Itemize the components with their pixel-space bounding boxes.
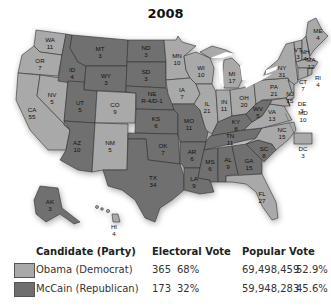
state-ev-NM: 5 (108, 146, 112, 153)
state-label-IA: IA (179, 86, 186, 93)
state-ev-CT: 7 (301, 85, 305, 92)
state-label-UT: UT (76, 99, 84, 106)
electoral-votes: 173 (152, 283, 171, 294)
state-ev-VA: 13 (269, 115, 276, 122)
state-label-WV: WV (253, 105, 264, 112)
state-label-SD: SD (142, 68, 151, 75)
state-ev-ID: 4 (70, 73, 74, 80)
state-label-NM: NM (105, 139, 115, 146)
state-label-FL: FL (258, 190, 266, 197)
state-ev-KS: 6 (154, 122, 158, 129)
state-ev-MT: 3 (98, 52, 102, 59)
state-label-SC: SC (260, 145, 269, 152)
state-label-TN: TN (226, 132, 234, 139)
state-ev-NV: 5 (50, 98, 54, 105)
republican-swatch (14, 282, 35, 297)
state-label-DE: DE (298, 100, 307, 107)
state-label-AL: AL (224, 156, 232, 163)
state-ev-MD: 10 (300, 116, 307, 123)
state-ev-RI: 4 (316, 81, 320, 88)
legend-row-obama: Obama (Democrat) 365 68% 69,498,459 52.9… (0, 263, 331, 279)
state-label-MN: MN (172, 52, 182, 59)
state-label-MI: MI (229, 70, 236, 77)
state-label-LA: LA (190, 175, 198, 182)
state-ev-MO: 11 (186, 124, 193, 131)
state-ev-ME: 4 (316, 34, 320, 41)
state-ev-NC: 15 (279, 133, 286, 140)
state-label-RI: RI (315, 74, 321, 81)
electoral-votes: 365 (152, 264, 171, 275)
legend-row-mccain: McCain (Republican) 173 32% 59,948,283 4… (0, 282, 331, 298)
candidate-name: Obama (Democrat) (36, 264, 133, 275)
state-DC[interactable] (294, 133, 312, 144)
state-label-WA: WA (45, 36, 56, 43)
state-label-ME: ME (313, 27, 322, 34)
state-ev-CA: 55 (29, 113, 36, 120)
state-label-MA: MA (306, 56, 316, 63)
state-label-AR: AR (188, 148, 197, 155)
state-label-AK: AK (46, 198, 55, 205)
state-ev-GA: 15 (246, 164, 253, 171)
state-HI[interactable] (96, 206, 121, 223)
state-ev-TX: 34 (150, 181, 157, 188)
state-ev-AR: 6 (190, 155, 194, 162)
state-label-MS: MS (205, 158, 214, 165)
state-label-GA: GA (245, 157, 255, 164)
state-label-NV: NV (48, 91, 57, 98)
state-ev-FL: 27 (259, 197, 266, 204)
state-ev-MS: 6 (208, 165, 212, 172)
state-label-WY: WY (101, 72, 111, 79)
state-label-PA: PA (270, 83, 279, 90)
state-ev-PA: 21 (271, 90, 278, 97)
state-label-OR: OR (35, 57, 45, 64)
state-ev-IL: 21 (204, 107, 211, 114)
state-label-CO: CO (110, 101, 119, 108)
state-label-NE: NE (148, 90, 157, 97)
state-label-WI: WI (197, 64, 205, 71)
header-popular-vote: Popular Vote (242, 246, 315, 257)
state-label-HI: HI (111, 223, 117, 230)
state-label-ID: ID (69, 66, 76, 73)
state-ev-CO: 9 (113, 108, 117, 115)
state-ev-OK: 7 (161, 149, 165, 156)
popular-votes: 69,498,459 (242, 264, 299, 275)
state-label-CA: CA (28, 106, 37, 113)
state-ev-TN: 11 (227, 139, 234, 146)
state-ev-AZ: 10 (74, 146, 81, 153)
us-electoral-map: WA11OR7CA55NV5ID4MT3WY3UT5AZ10CO9NM5ND3S… (0, 0, 331, 246)
state-ev-WA: 11 (47, 43, 54, 50)
electoral-pct: 32% (177, 283, 199, 294)
state-label-CT: CT (299, 78, 307, 85)
state-ev-AK: 3 (48, 205, 52, 212)
state-FL[interactable] (226, 174, 278, 220)
candidate-name: McCain (Republican) (36, 283, 139, 294)
state-ev-ND: 3 (144, 51, 148, 58)
state-label-KY: KY (232, 118, 240, 125)
state-ev-UT: 5 (78, 106, 82, 113)
state-label-NH: NH (301, 48, 310, 55)
state-ev-MA: 12 (308, 63, 315, 70)
state-ev-KY: 8 (234, 125, 238, 132)
state-ev-MN: 10 (174, 59, 181, 66)
democrat-swatch (14, 263, 35, 278)
state-ev-OH: 20 (241, 101, 248, 108)
state-label-DC: DC (299, 145, 308, 152)
state-ev-SD: 3 (144, 75, 148, 82)
state-label-OK: OK (159, 142, 169, 149)
state-ev-DC: 3 (301, 152, 305, 159)
state-ev-HI: 4 (112, 230, 116, 237)
popular-pct: 45.6% (296, 283, 328, 294)
header-candidate: Candidate (Party) (36, 246, 136, 257)
state-ev-NJ: 15 (287, 97, 294, 104)
state-label-VA: VA (268, 108, 277, 115)
state-label-MT: MT (96, 45, 105, 52)
popular-pct: 52.9% (296, 264, 328, 275)
state-ev-NE: R-4/D-1 (141, 97, 163, 104)
state-label-OH: OH (239, 94, 248, 101)
popular-votes: 59,948,283 (242, 283, 299, 294)
state-label-NC: NC (278, 126, 287, 133)
state-ev-IN: 11 (221, 105, 228, 112)
state-AK[interactable] (34, 186, 80, 224)
state-ev-SC: 8 (262, 152, 266, 159)
state-label-NY: NY (278, 64, 287, 71)
